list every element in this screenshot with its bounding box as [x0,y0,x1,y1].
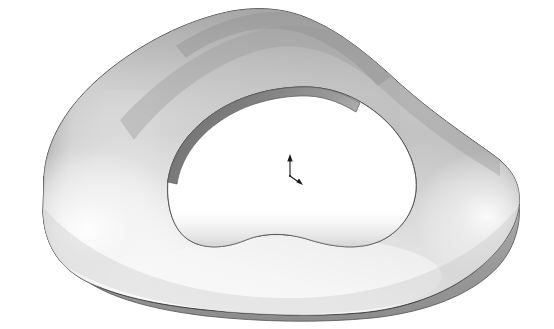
figure-canvas: Shaded annular shell surface with pentag… [0,0,554,329]
axis-origin-dot [289,175,291,177]
shaded-surface-render [0,0,554,329]
